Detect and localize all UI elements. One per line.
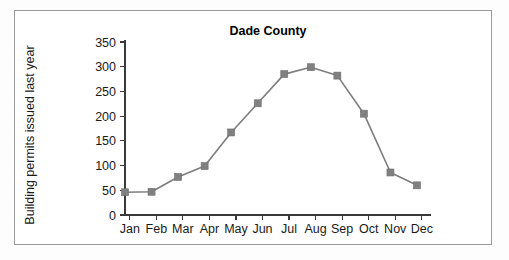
data-point-marker	[122, 189, 129, 196]
data-point-marker	[201, 163, 208, 170]
data-point-marker	[175, 173, 182, 180]
chart-plot-area: Dade County Building permits issued last…	[15, 11, 491, 244]
y-tick-label: 50	[102, 184, 116, 198]
data-point-marker	[148, 188, 155, 195]
y-axis-ticks: 050100150200250300350	[95, 36, 125, 223]
data-point-marker	[360, 110, 367, 117]
data-point-marker	[254, 100, 261, 107]
axis-spines	[125, 40, 431, 215]
data-point-marker	[334, 72, 341, 79]
y-tick-label: 100	[95, 159, 116, 173]
y-tick-label: 200	[95, 110, 116, 124]
x-tick-label: Aug	[304, 222, 326, 236]
x-tick-label: Dec	[411, 222, 433, 236]
data-point-marker	[387, 169, 394, 176]
x-tick-label: Apr	[200, 222, 219, 236]
x-tick-label: Jul	[281, 222, 297, 236]
data-point-marker	[281, 71, 288, 78]
y-tick-label: 250	[95, 85, 116, 99]
y-tick-label: 0	[109, 209, 116, 223]
x-tick-label: Oct	[359, 222, 379, 236]
data-point-marker	[414, 182, 421, 189]
series-line	[125, 67, 417, 192]
data-point-marker	[307, 64, 314, 71]
x-tick-label: Jan	[120, 222, 140, 236]
series-markers	[122, 64, 421, 196]
x-tick-label: Mar	[172, 222, 194, 236]
y-tick-label: 150	[95, 134, 116, 148]
x-tick-label: Feb	[146, 222, 168, 236]
x-tick-label: May	[224, 222, 248, 236]
chart-title: Dade County	[229, 24, 306, 38]
x-tick-label: Sep	[331, 222, 353, 236]
data-point-marker	[228, 129, 235, 136]
y-tick-label: 350	[95, 36, 116, 50]
y-tick-label: 300	[95, 60, 116, 74]
line-chart: Dade County Building permits issued last…	[15, 11, 493, 246]
x-axis-ticks: JanFebMarAprMayJunJulAugSepOctNovDec	[120, 215, 433, 236]
x-tick-label: Jun	[252, 222, 272, 236]
y-axis-title: Building permits issued last year	[23, 45, 37, 224]
x-tick-label: Nov	[384, 222, 407, 236]
figure-frame: Dade County Building permits issued last…	[14, 10, 492, 245]
